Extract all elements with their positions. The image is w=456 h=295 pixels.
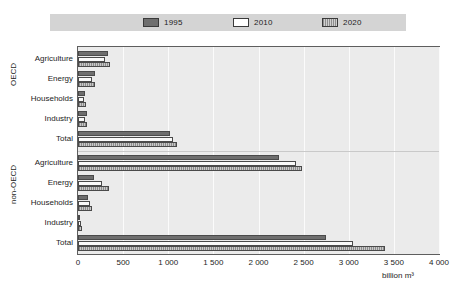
x-tick-label: 2 500 xyxy=(294,258,314,267)
x-tick-label: 3 500 xyxy=(384,258,404,267)
bar-oecd-agriculture-1995 xyxy=(78,51,108,56)
bar-non-oecd-energy-1995 xyxy=(78,175,94,180)
bar-non-oecd-total-2020 xyxy=(78,246,385,251)
category-label-industry: Industry xyxy=(45,218,73,227)
chart-figure: 1995 2010 2020 OECD non-OECD Agriculture… xyxy=(0,0,456,295)
x-tick-label: 1 000 xyxy=(158,258,178,267)
bar-non-oecd-industry-1995 xyxy=(78,215,80,220)
legend-swatch-1995 xyxy=(143,18,159,27)
category-label-total: Total xyxy=(56,238,73,247)
legend-label-2020: 2020 xyxy=(343,18,362,27)
category-label-column: AgricultureEnergyHouseholdsIndustryTotal… xyxy=(0,46,73,255)
bar-non-oecd-agriculture-2010 xyxy=(78,161,296,166)
bar-oecd-energy-1995 xyxy=(78,71,95,76)
bar-oecd-agriculture-2010 xyxy=(78,57,105,62)
bar-oecd-total-2010 xyxy=(78,137,173,142)
bar-oecd-households-2010 xyxy=(78,97,84,102)
bar-non-oecd-total-1995 xyxy=(78,235,326,240)
bar-non-oecd-total-2010 xyxy=(78,241,353,246)
category-label-agriculture: Agriculture xyxy=(35,54,73,63)
bar-non-oecd-households-1995 xyxy=(78,195,88,200)
category-label-energy: Energy xyxy=(48,178,73,187)
chart-legend: 1995 2010 2020 xyxy=(50,14,406,31)
bar-non-oecd-industry-2010 xyxy=(78,221,81,226)
bar-non-oecd-households-2010 xyxy=(78,201,90,206)
bar-oecd-industry-1995 xyxy=(78,111,87,116)
category-label-total: Total xyxy=(56,134,73,143)
bar-oecd-industry-2010 xyxy=(78,117,85,122)
bar-oecd-households-1995 xyxy=(78,91,85,96)
legend-item-2010: 2010 xyxy=(233,18,273,27)
category-label-households: Households xyxy=(31,198,73,207)
category-label-agriculture: Agriculture xyxy=(35,158,73,167)
x-axis-unit-label: billion m³ xyxy=(382,271,414,280)
bar-non-oecd-agriculture-2020 xyxy=(78,166,302,171)
legend-item-1995: 1995 xyxy=(143,18,183,27)
category-label-households: Households xyxy=(31,94,73,103)
plot-area xyxy=(77,46,440,255)
legend-label-2010: 2010 xyxy=(254,18,273,27)
category-label-industry: Industry xyxy=(45,114,73,123)
legend-item-2020: 2020 xyxy=(322,18,362,27)
bar-oecd-total-2020 xyxy=(78,142,177,147)
gridline xyxy=(439,47,440,254)
bar-oecd-agriculture-2020 xyxy=(78,62,110,67)
bar-oecd-industry-2020 xyxy=(78,122,87,127)
bar-non-oecd-energy-2010 xyxy=(78,181,102,186)
group-separator xyxy=(78,151,439,152)
legend-swatch-2010 xyxy=(233,18,249,27)
bar-oecd-energy-2020 xyxy=(78,82,95,87)
bar-non-oecd-energy-2020 xyxy=(78,186,109,191)
legend-swatch-2020 xyxy=(322,18,338,27)
bar-non-oecd-agriculture-1995 xyxy=(78,155,279,160)
bar-oecd-total-1995 xyxy=(78,131,170,136)
bar-non-oecd-industry-2020 xyxy=(78,226,82,231)
x-tick-label: 2 000 xyxy=(248,258,268,267)
bar-oecd-energy-2010 xyxy=(78,77,92,82)
x-tick-label: 500 xyxy=(116,258,129,267)
x-tick-label: 1 500 xyxy=(203,258,223,267)
legend-label-1995: 1995 xyxy=(164,18,183,27)
x-tick-label: 0 xyxy=(76,258,80,267)
bar-non-oecd-households-2020 xyxy=(78,206,92,211)
category-label-energy: Energy xyxy=(48,74,73,83)
x-tick-label: 3 000 xyxy=(339,258,359,267)
x-tick-label: 4 000 xyxy=(429,258,449,267)
bar-oecd-households-2020 xyxy=(78,102,86,107)
